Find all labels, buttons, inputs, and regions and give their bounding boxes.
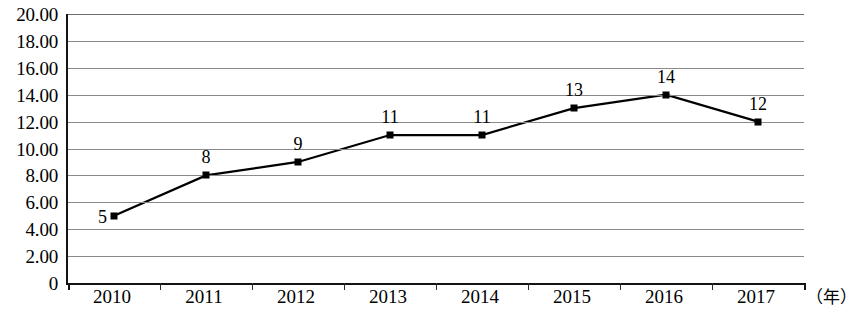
y-axis-tick-label: 14.00 bbox=[0, 85, 58, 104]
gridline bbox=[68, 149, 804, 150]
y-axis-tick-label: 4.00 bbox=[0, 220, 58, 239]
data-point-marker bbox=[663, 91, 670, 98]
y-axis-tick-label: 10.00 bbox=[0, 139, 58, 158]
y-axis-tick-label: 6.00 bbox=[0, 193, 58, 212]
x-axis-unit-label: （年） bbox=[806, 288, 857, 308]
gridline bbox=[68, 229, 804, 230]
data-point-marker bbox=[295, 158, 302, 165]
y-axis-tick-label: 20.00 bbox=[0, 5, 58, 24]
y-axis-tick-label: 12.00 bbox=[0, 112, 58, 131]
x-axis-tick-label: 2011 bbox=[185, 287, 222, 307]
data-point-label: 9 bbox=[294, 135, 303, 153]
gridline bbox=[68, 68, 804, 69]
y-axis-tick-label: 2.00 bbox=[0, 247, 58, 266]
x-axis-tick bbox=[252, 283, 253, 290]
data-point-label: 14 bbox=[657, 68, 675, 86]
x-axis-tick bbox=[712, 283, 713, 290]
y-axis-tick-label: 18.00 bbox=[0, 31, 58, 50]
x-axis-tick-label: 2014 bbox=[461, 287, 499, 307]
data-point-label: 13 bbox=[565, 81, 583, 99]
x-axis-tick bbox=[620, 283, 621, 290]
data-point-marker bbox=[479, 132, 486, 139]
gridline bbox=[68, 202, 804, 203]
data-point-marker bbox=[203, 172, 210, 179]
gridline bbox=[68, 256, 804, 257]
y-axis-tick-label: 16.00 bbox=[0, 58, 58, 77]
gridline bbox=[68, 122, 804, 123]
data-point-marker bbox=[111, 212, 118, 219]
gridline bbox=[68, 14, 804, 15]
data-point-label: 11 bbox=[381, 108, 398, 126]
x-axis-endcap bbox=[68, 283, 70, 290]
x-axis-tick-label: 2012 bbox=[277, 287, 315, 307]
data-point-label: 8 bbox=[202, 148, 211, 166]
x-axis-tick-label: 2017 bbox=[737, 287, 775, 307]
x-axis-tick bbox=[344, 283, 345, 290]
line-chart: 20.0018.0016.0014.0012.0010.008.006.004.… bbox=[0, 0, 857, 315]
data-point-marker bbox=[571, 105, 578, 112]
data-point-label: 11 bbox=[473, 108, 490, 126]
x-axis-tick-label: 2015 bbox=[553, 287, 591, 307]
plot-area: 5891111131412 bbox=[66, 14, 804, 285]
data-point-label: 12 bbox=[749, 95, 767, 113]
x-axis-tick bbox=[160, 283, 161, 290]
x-axis-tick-label: 2010 bbox=[93, 287, 131, 307]
y-axis-tick-labels: 20.0018.0016.0014.0012.0010.008.006.004.… bbox=[0, 0, 58, 315]
x-axis-tick bbox=[528, 283, 529, 290]
data-point-label: 5 bbox=[98, 208, 107, 226]
y-axis-tick-label: 0 bbox=[0, 274, 58, 293]
gridline bbox=[68, 175, 804, 176]
data-point-marker bbox=[387, 132, 394, 139]
x-axis-tick-label: 2016 bbox=[645, 287, 683, 307]
x-axis-tick bbox=[436, 283, 437, 290]
gridline bbox=[68, 95, 804, 96]
y-axis-tick-label: 8.00 bbox=[0, 166, 58, 185]
x-axis-tick-label: 2013 bbox=[369, 287, 407, 307]
data-point-marker bbox=[755, 118, 762, 125]
gridline bbox=[68, 41, 804, 42]
